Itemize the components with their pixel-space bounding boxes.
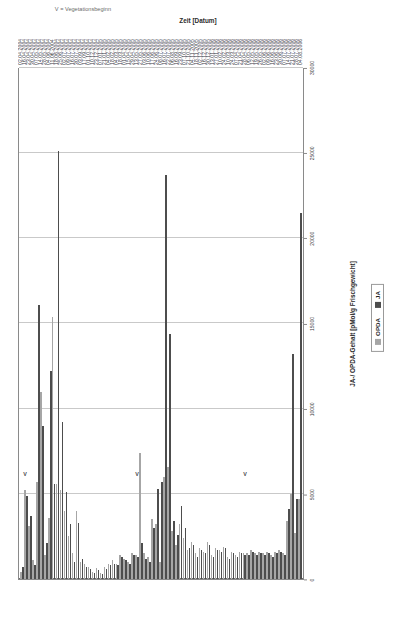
chart-annotation: V = Vegetationsbeginn xyxy=(55,6,111,12)
value-tick-mark xyxy=(304,68,307,69)
legend-swatch-opda xyxy=(375,339,381,345)
category-tick-label: 04.08.2006 xyxy=(299,0,303,68)
value-tick-label: 30000 xyxy=(304,61,315,75)
value-axis: 050001000015000200002500030000 xyxy=(304,68,324,580)
bar-row xyxy=(298,68,302,579)
legend-label-opda: OPDA xyxy=(374,318,381,336)
legend-swatch-ja xyxy=(375,302,381,308)
value-tick-label: 10000 xyxy=(304,402,315,416)
plot-area: VVV xyxy=(18,68,304,580)
vegetation-start-marker: V xyxy=(243,471,247,477)
value-tick-mark xyxy=(304,409,307,410)
vegetation-start-marker: V xyxy=(23,471,27,477)
value-tick-label: 5000 xyxy=(304,489,315,500)
value-axis-title: JA-/ OPDA-Gehalt [pMol/g Frischgewicht] xyxy=(349,68,356,580)
chart-area: VVV 02.04.200416.04.200423.04.200430.04.… xyxy=(0,0,396,636)
value-tick-mark xyxy=(304,324,307,325)
value-tick-mark xyxy=(304,238,307,239)
value-tick-label: 0 xyxy=(304,579,315,582)
rotated-chart-canvas: VVV 02.04.200416.04.200423.04.200430.04.… xyxy=(0,0,396,636)
value-tick-mark xyxy=(304,494,307,495)
value-tick-label: 25000 xyxy=(304,146,315,160)
bar-rows xyxy=(19,68,303,579)
legend-label-ja: JA xyxy=(374,291,381,299)
vegetation-start-marker: V xyxy=(135,471,139,477)
value-tick-label: 15000 xyxy=(304,317,315,331)
legend-item-ja: JA xyxy=(374,291,381,308)
chart-legend: OPDA JA xyxy=(371,284,384,352)
legend-item-opda: OPDA xyxy=(374,318,381,345)
value-tick-mark xyxy=(304,153,307,154)
value-tick-label: 20000 xyxy=(304,232,315,246)
bar-ja xyxy=(300,213,301,579)
category-axis-title: Zeit [Datum] xyxy=(179,17,216,24)
value-tick-mark xyxy=(304,580,307,581)
